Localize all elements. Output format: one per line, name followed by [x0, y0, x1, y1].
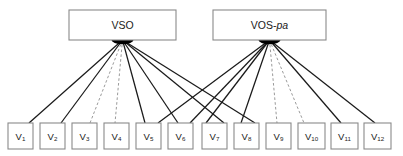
factor-box-vso: VSO — [69, 10, 176, 40]
edge-vos_pa-to-v12 — [270, 40, 376, 123]
edge-vso-to-v4 — [115, 40, 123, 123]
indicator-box-v11: V11 — [331, 123, 358, 149]
diagram-canvas: VSOVOS-pa V1V2V3V4V5V6V7V8V9V10V11V12 — [0, 0, 403, 156]
indicator-box-v12: V12 — [364, 123, 391, 149]
factor-box-vos_pa: VOS-pa — [213, 10, 326, 40]
indicators-layer: V1V2V3V4V5V6V7V8V9V10V11V12 — [8, 123, 391, 149]
factor-label-vso: VSO — [111, 18, 133, 30]
edge-vso-to-v3 — [90, 40, 123, 123]
indicator-box-v8: V8 — [234, 123, 259, 149]
indicator-box-v1: V1 — [8, 123, 33, 149]
indicator-box-v2: V2 — [40, 123, 65, 149]
indicator-box-v4: V4 — [104, 123, 129, 149]
indicator-box-v7: V7 — [202, 123, 227, 149]
edge-vos_pa-to-v7 — [206, 40, 270, 123]
edge-vos_pa-to-v10 — [270, 40, 305, 123]
edge-vso-to-v2 — [61, 40, 123, 123]
factors-layer: VSOVOS-pa — [69, 10, 326, 40]
edge-vos_pa-to-v8 — [241, 40, 270, 123]
indicator-box-v5: V5 — [136, 123, 161, 149]
path-diagram: VSOVOS-pa V1V2V3V4V5V6V7V8V9V10V11V12 — [0, 0, 403, 156]
edge-vos_pa-to-v11 — [270, 40, 342, 123]
edge-vos_pa-to-v5 — [158, 40, 270, 123]
indicator-box-v10: V10 — [298, 123, 325, 149]
edges-layer — [29, 40, 375, 123]
edge-vso-to-v8 — [123, 40, 256, 123]
edge-vso-to-v6 — [123, 40, 179, 123]
edge-vso-to-v1 — [29, 40, 123, 123]
edge-vso-to-v7 — [123, 40, 225, 123]
factor-label-vos_pa: VOS-pa — [251, 18, 289, 30]
edge-vos_pa-to-v9 — [270, 40, 278, 123]
indicator-box-v3: V3 — [72, 123, 97, 149]
indicator-box-v9: V9 — [266, 123, 291, 149]
edge-vos_pa-to-v6 — [190, 40, 270, 123]
indicator-box-v6: V6 — [168, 123, 193, 149]
